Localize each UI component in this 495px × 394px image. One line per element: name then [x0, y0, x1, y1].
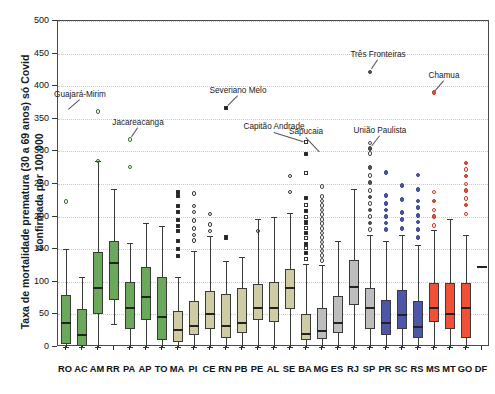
x-tick-mark — [129, 346, 130, 350]
whisker-lower — [258, 320, 259, 347]
median-pi — [189, 325, 199, 327]
outlier-point — [128, 165, 133, 170]
outlier-point — [288, 174, 293, 179]
x-tick-mark — [369, 346, 370, 350]
whisker-lower — [98, 314, 99, 347]
whisker-cap-upper — [255, 219, 261, 220]
annotation-label: Jacareacanga — [112, 118, 163, 127]
outlier-point — [192, 233, 197, 238]
outlier-point — [320, 253, 325, 258]
median-al — [269, 307, 279, 309]
y-tick-mark — [52, 85, 57, 86]
x-tick-mark — [65, 346, 66, 350]
whisker-cap-upper — [79, 277, 85, 278]
outlier-point — [400, 217, 405, 222]
outlier-point — [192, 238, 197, 243]
x-tick-label-ac: AC — [74, 364, 87, 374]
median-pr — [381, 322, 391, 324]
x-tick-label-am: AM — [90, 364, 104, 374]
x-tick-label-pa: PA — [123, 364, 135, 374]
y-tick-mark — [52, 346, 57, 347]
whisker-cap-upper — [319, 265, 325, 266]
median-rs — [413, 326, 423, 328]
whisker-lower — [354, 305, 355, 347]
y-tick-label: 350 — [15, 113, 49, 123]
x-tick-label-ma: MA — [170, 364, 184, 374]
outlier-point — [368, 201, 373, 206]
outlier-point — [464, 161, 469, 166]
outlier-point — [304, 246, 308, 250]
median-go — [461, 307, 471, 309]
y-tick-mark — [52, 150, 57, 151]
annotation-leader-line — [227, 96, 238, 107]
y-tick-label: 450 — [15, 48, 49, 58]
outlier-point — [304, 242, 308, 246]
boxplot-figure: Taxa de mortalidade prematura (30 a 69 a… — [0, 0, 495, 394]
outlier-point — [384, 193, 389, 198]
whisker-upper — [370, 235, 371, 288]
median-se — [285, 287, 295, 289]
outlier-point — [96, 109, 101, 114]
box-pe — [253, 284, 263, 319]
gridline — [58, 249, 488, 250]
x-tick-label-go: GO — [458, 364, 472, 374]
outlier-point — [304, 152, 308, 156]
box-pi — [189, 301, 199, 335]
whisker-cap-upper — [431, 230, 437, 231]
outlier-point — [432, 199, 437, 204]
y-tick-label: 150 — [15, 243, 49, 253]
annotation-label: Guajará-Mirim — [54, 90, 106, 99]
gridline — [58, 86, 488, 87]
outlier-point — [320, 203, 325, 208]
outlier-point — [304, 215, 308, 219]
whisker-upper — [98, 161, 99, 252]
box-am — [93, 252, 103, 314]
outlier-point — [384, 208, 389, 213]
y-tick-label: 200 — [15, 211, 49, 221]
median-ma — [173, 329, 183, 331]
outlier-point — [320, 258, 325, 263]
x-tick-label-ap: AP — [139, 364, 152, 374]
x-tick-label-sp: SP — [363, 364, 375, 374]
x-tick-label-sc: SC — [395, 364, 408, 374]
outlier-point — [432, 214, 437, 219]
outlier-point — [432, 190, 437, 195]
whisker-upper — [338, 241, 339, 296]
outlier-point — [368, 173, 373, 178]
y-tick-label: 0 — [15, 341, 49, 351]
outlier-point — [304, 209, 308, 213]
outlier-point — [320, 249, 325, 254]
box-ro — [61, 295, 71, 344]
outlier-point — [176, 224, 180, 228]
median-to — [157, 316, 167, 318]
whisker-upper — [418, 245, 419, 301]
outlier-point — [192, 226, 197, 231]
whisker-cap-upper — [223, 261, 229, 262]
outlier-point — [416, 220, 421, 225]
outlier-point — [256, 229, 261, 234]
box-to — [157, 277, 167, 341]
outlier-point — [416, 173, 421, 178]
outlier-point — [368, 208, 373, 213]
outlier-point — [368, 188, 373, 193]
median-ap — [141, 296, 151, 298]
outlier-point — [192, 191, 197, 196]
whisker-lower — [274, 322, 275, 347]
outlier-point — [208, 212, 213, 217]
outlier-point — [304, 257, 308, 261]
median-es — [333, 322, 343, 324]
outlier-point — [384, 201, 389, 206]
outlier-point — [416, 199, 421, 204]
plot-area: Guajará-MirimJacareacangaSeveriano MeloC… — [57, 20, 489, 346]
y-tick-mark — [52, 281, 57, 282]
y-tick-mark — [52, 313, 57, 314]
x-tick-label-rj: RJ — [347, 364, 359, 374]
outlier-point — [320, 194, 325, 199]
whisker-cap-upper — [127, 243, 133, 244]
y-tick-mark — [52, 20, 57, 21]
median-ba — [301, 333, 311, 335]
x-tick-mark — [305, 346, 306, 350]
outlier-point — [176, 190, 180, 194]
box-rj — [349, 260, 359, 306]
annotation-leader-line — [371, 59, 378, 69]
